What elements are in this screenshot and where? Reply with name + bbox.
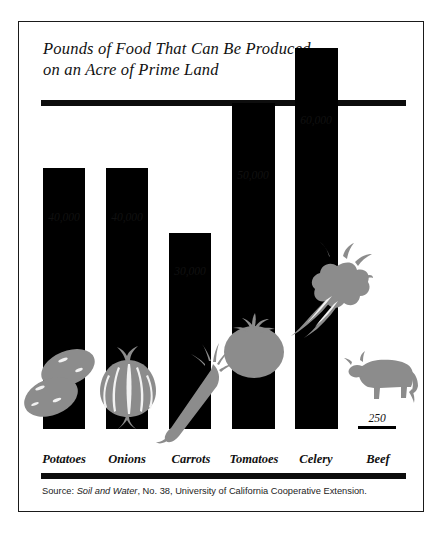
value-label-tomatoes: 50,000 [222,169,284,181]
value-label-beef: 250 [347,412,407,424]
celery-icon [281,240,373,340]
plot-area: 40,000 Potatoes 40,000 Onions [19,22,425,513]
bar-beef [358,426,396,430]
category-label-potatoes: Potatoes [27,452,101,467]
value-label-onions: 40,000 [96,211,158,223]
chart-frame: Pounds of Food That Can Be Produced on a… [18,21,424,512]
source-citation: Source: Soil and Water, No. 38, Universi… [42,486,412,496]
source-publication: Soil and Water [77,486,138,496]
tomato-icon [218,310,290,382]
category-label-beef: Beef [349,452,407,467]
category-label-onions: Onions [93,452,161,467]
bar-celery [295,48,338,429]
category-label-tomatoes: Tomatoes [215,452,293,467]
value-label-celery: 60,000 [285,114,347,126]
source-suffix: , No. 38, University of California Coope… [137,486,366,496]
source-prefix: Source: [42,486,77,496]
cow-icon [344,349,420,407]
potato-icon [23,342,103,432]
category-label-celery: Celery [283,452,349,467]
value-label-carrots: 30,000 [159,265,221,277]
value-label-potatoes: 40,000 [33,211,95,223]
